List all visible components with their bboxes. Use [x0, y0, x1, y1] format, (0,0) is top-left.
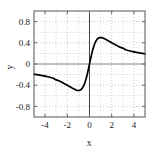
y-tick-label: 0.4: [19, 38, 31, 48]
figure-container: -4-2024 -0.8-0.400.40.8 x y: [0, 0, 154, 153]
y-tick-label: 0: [26, 59, 31, 69]
y-axis-title: y: [5, 64, 15, 69]
x-tick-label: 0: [87, 120, 92, 130]
x-tick-label: 2: [109, 120, 114, 130]
x-axis-title: x: [87, 138, 92, 148]
y-tick-label: 0.8: [19, 17, 31, 27]
x-tick-label: -2: [64, 120, 72, 130]
line-chart: -4-2024 -0.8-0.400.40.8 x y: [0, 0, 154, 153]
x-tick-label: -4: [41, 120, 49, 130]
y-tick-label: -0.4: [16, 80, 31, 90]
x-tick-label: 4: [132, 120, 137, 130]
y-tick-label: -0.8: [16, 102, 31, 112]
